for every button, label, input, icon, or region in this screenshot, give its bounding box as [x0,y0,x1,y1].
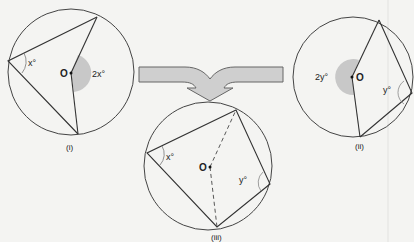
figure-i: x° O 2x° (i) [8,9,134,152]
inscribed-angle-label-i: x° [28,58,37,68]
center-label-iii: O [199,162,207,173]
dashed-radius-bottom-iii [210,167,217,227]
center-label-ii: O [356,72,364,83]
angle-arc-x-iii [160,146,164,165]
inscribed-angle-label-ii: y° [383,85,392,95]
triangle-chords-ii [360,20,412,137]
figure-iii: x° O y° (iii) [144,102,272,242]
center-point-i [70,72,73,75]
caption-ii: (ii) [355,142,364,151]
radius-ob-ii [352,77,360,137]
dashed-radius-top-iii [210,110,236,167]
radius-oa-ii [352,20,379,77]
central-angle-label-i: 2x° [92,69,106,79]
inscribed-angle-arc-i [22,53,26,73]
angle-arc-y-iii [258,172,263,191]
center-point-ii [351,76,354,79]
caption-iii: (iii) [211,233,222,242]
central-angle-shading-i [71,55,91,92]
angle-label-y-iii: y° [239,175,248,185]
angle-label-x-iii: x° [166,152,175,162]
merge-arrow [139,67,283,101]
caption-i: (i) [66,143,73,152]
circle-theorem-diagram: x° O 2x° (i) 2y° O y° (ii) x° O y° (iii) [0,0,414,242]
center-point-iii [209,166,212,169]
circle-iii [144,102,272,230]
central-angle-label-ii: 2y° [315,72,329,82]
figure-ii: 2y° O y° (ii) [293,17,413,151]
cyclic-quadrilateral-iii [147,110,270,227]
center-label-i: O [60,68,68,79]
